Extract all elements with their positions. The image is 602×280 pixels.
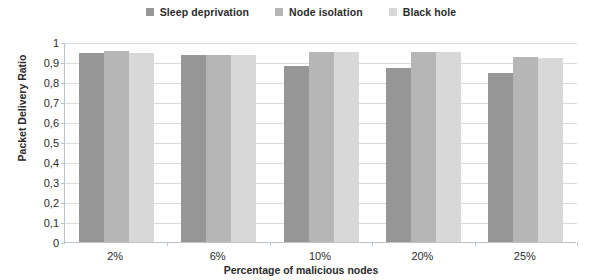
x-axis-tick-label: 25% bbox=[514, 250, 536, 262]
y-axis-tick bbox=[61, 203, 65, 204]
bar bbox=[538, 58, 563, 242]
bar bbox=[181, 55, 206, 242]
y-axis-title: Packet Delivery Ratio bbox=[16, 28, 28, 188]
legend-label: Sleep deprivation bbox=[160, 6, 249, 18]
bar-group bbox=[79, 42, 154, 242]
bar bbox=[129, 53, 154, 242]
y-axis-tick-label: 0,2 bbox=[44, 197, 59, 209]
bar-group bbox=[488, 42, 563, 242]
bar-group bbox=[386, 42, 461, 242]
x-axis-tick-label: 20% bbox=[411, 250, 433, 262]
bar bbox=[411, 52, 436, 242]
y-axis-tick bbox=[61, 83, 65, 84]
bar bbox=[488, 73, 513, 242]
x-axis-tick-label: 2% bbox=[107, 250, 123, 262]
legend-item-sleep-deprivation: Sleep deprivation bbox=[146, 6, 249, 18]
bar bbox=[386, 68, 411, 242]
x-axis-tick-label: 6% bbox=[210, 250, 226, 262]
plot-area bbox=[64, 43, 576, 243]
y-axis-tick bbox=[61, 103, 65, 104]
y-axis-tick bbox=[61, 43, 65, 44]
y-axis-tick-label: 0,5 bbox=[44, 137, 59, 149]
x-axis-tick bbox=[270, 242, 271, 246]
legend-swatch-icon bbox=[275, 8, 283, 16]
y-axis-tick-label: 0 bbox=[53, 237, 59, 249]
y-axis-tick bbox=[61, 243, 65, 244]
legend-item-node-isolation: Node isolation bbox=[275, 6, 363, 18]
bar bbox=[206, 55, 231, 242]
y-axis-tick-label: 0,1 bbox=[44, 217, 59, 229]
bar-group bbox=[284, 42, 359, 242]
y-axis-tick bbox=[61, 123, 65, 124]
bar bbox=[104, 51, 129, 242]
y-axis-tick bbox=[61, 183, 65, 184]
bar bbox=[309, 52, 334, 242]
bar-chart: Sleep deprivation Node isolation Black h… bbox=[0, 0, 602, 280]
bar bbox=[334, 52, 359, 242]
y-axis-tick-label: 0,9 bbox=[44, 57, 59, 69]
x-axis-tick bbox=[372, 242, 373, 246]
y-axis-tick-labels: 10,90,80,70,60,50,40,30,20,10 bbox=[26, 43, 59, 243]
y-axis-tick-label: 1 bbox=[53, 37, 59, 49]
legend-item-black-hole: Black hole bbox=[389, 6, 457, 18]
y-axis-tick-label: 0,3 bbox=[44, 177, 59, 189]
y-axis-tick bbox=[61, 223, 65, 224]
x-axis-tick bbox=[577, 242, 578, 246]
legend-swatch-icon bbox=[389, 8, 397, 16]
legend-swatch-icon bbox=[146, 8, 154, 16]
bar bbox=[513, 57, 538, 242]
x-axis-title: Percentage of malicious nodes bbox=[0, 264, 602, 276]
bar bbox=[79, 53, 104, 242]
x-axis-tick-label: 10% bbox=[309, 250, 331, 262]
bar bbox=[231, 55, 256, 242]
bar bbox=[436, 52, 461, 242]
x-axis-tick bbox=[475, 242, 476, 246]
y-axis-tick-label: 0,6 bbox=[44, 117, 59, 129]
y-axis-tick-label: 0,8 bbox=[44, 77, 59, 89]
chart-legend: Sleep deprivation Node isolation Black h… bbox=[0, 6, 602, 18]
bar bbox=[284, 66, 309, 242]
y-axis-tick bbox=[61, 143, 65, 144]
y-axis-tick-label: 0,4 bbox=[44, 157, 59, 169]
y-axis-tick bbox=[61, 63, 65, 64]
y-axis-tick bbox=[61, 163, 65, 164]
legend-label: Black hole bbox=[403, 6, 457, 18]
legend-label: Node isolation bbox=[289, 6, 363, 18]
x-axis-tick bbox=[167, 242, 168, 246]
bar-group bbox=[181, 42, 256, 242]
y-axis-tick-label: 0,7 bbox=[44, 97, 59, 109]
